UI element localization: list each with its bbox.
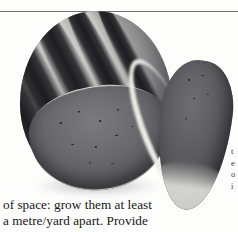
body-text: of space: grow them at least a metre/yar… <box>3 197 175 229</box>
clipped-text-fragment: e <box>231 158 238 170</box>
watermelon-photograph <box>0 8 238 204</box>
clipped-text-fragment: t <box>231 146 238 158</box>
clipped-text-fragment: i <box>231 181 238 193</box>
body-text-line: of space: grow them at least <box>3 197 175 213</box>
body-text-line: a metre/yard apart. Provide <box>3 213 175 229</box>
book-page: of space: grow them at least a metre/yar… <box>0 0 238 232</box>
clipped-column-text: t e o i <box>231 146 238 192</box>
clipped-text-fragment: o <box>231 169 238 181</box>
